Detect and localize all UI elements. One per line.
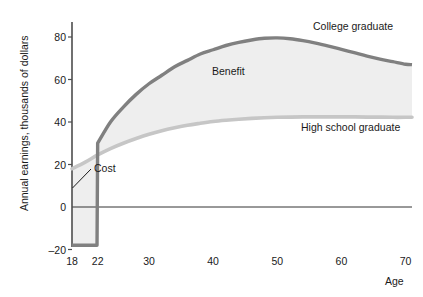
x-tick-50: 50 (262, 256, 292, 267)
college-graduate-label: College graduate (313, 21, 393, 32)
high-school-graduate-label: High school graduate (301, 122, 400, 133)
benefit-region-label: Benefit (212, 66, 245, 77)
x-tick-22: 22 (83, 256, 113, 267)
y-axis-title: Annual earnings, thousands of dollars (19, 33, 30, 213)
y-tick-minus-20: –20 (40, 245, 66, 256)
x-tick-30: 30 (134, 256, 164, 267)
y-tick-60: 60 (40, 75, 66, 86)
cost-region-label: Cost (94, 163, 116, 174)
x-tick-70: 70 (391, 256, 421, 267)
y-tick-20: 20 (40, 160, 66, 171)
x-tick-40: 40 (198, 256, 228, 267)
x-axis-title: Age (385, 276, 404, 287)
y-axis-line (68, 22, 72, 250)
y-tick-80: 80 (40, 32, 66, 43)
y-tick-40: 40 (40, 117, 66, 128)
x-tick-60: 60 (326, 256, 356, 267)
y-tick-0: 0 (40, 202, 66, 213)
earnings-chart: 80 60 40 20 0 –20 18 22 30 40 50 60 70 A… (0, 0, 423, 297)
